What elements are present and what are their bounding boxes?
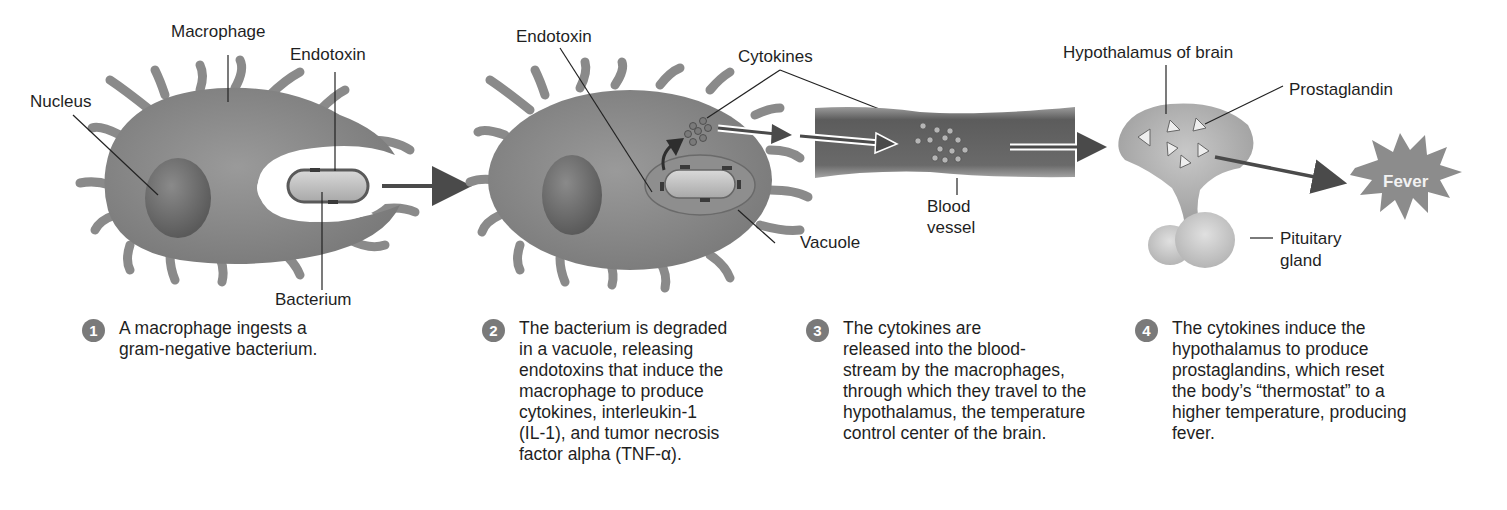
macrophage-cell-1 [80,60,415,282]
step-text-4: The cytokines induce the hypothalamus to… [1172,318,1406,444]
label-cytokines: Cytokines [738,47,813,67]
label-vacuole: Vacuole [800,233,860,253]
label-blood-vessel: Blood vessel [927,196,975,238]
label-pituitary-gland: Pituitary gland [1280,228,1341,272]
macrophage-cell-2 [470,62,808,288]
label-endotoxin-2: Endotoxin [516,27,592,47]
label-bacterium: Bacterium [275,290,352,310]
step-badge-1: 1 [82,319,105,342]
step-text-1: A macrophage ingests a gram-negative bac… [119,318,317,360]
bacterium-2 [665,170,735,198]
nucleus-2 [542,155,602,235]
nucleus-1 [145,158,211,238]
prostaglandin-leader [1205,86,1283,124]
label-hypothalamus: Hypothalamus of brain [1063,43,1233,63]
bacterium-1 [288,170,368,202]
step-text-3: The cytokines are released into the bloo… [843,318,1086,444]
label-macrophage: Macrophage [171,22,266,42]
step-text-2: The bacterium is degraded in a vacuole, … [519,318,727,465]
label-fever: Fever [1383,172,1428,192]
step-badge-3: 3 [806,319,829,342]
label-nucleus: Nucleus [30,92,91,112]
label-prostaglandin: Prostaglandin [1289,80,1393,100]
step-badge-4: 4 [1135,319,1158,342]
step-badge-2: 2 [482,319,505,342]
blood-vessel [800,107,1092,178]
hypothalamus-brain [1118,103,1253,268]
pituitary-lobe-right [1175,212,1235,268]
label-endotoxin-1: Endotoxin [290,45,366,65]
